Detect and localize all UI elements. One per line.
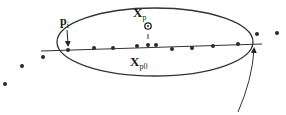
- projected-point-center: [147, 25, 149, 27]
- outlier-point: [41, 55, 45, 59]
- data-point: [92, 46, 96, 50]
- data-point: [66, 48, 70, 52]
- label-x-p0-main: X: [130, 54, 139, 69]
- data-point: [111, 46, 115, 50]
- label-p-i: pi: [60, 15, 69, 27]
- outlier-point: [3, 82, 7, 86]
- data-point: [154, 43, 158, 47]
- fit-line: [41, 44, 262, 51]
- neighborhood-ellipse: [57, 8, 253, 76]
- data-point: [211, 44, 215, 48]
- outlier-point: [275, 31, 279, 35]
- label-x-p-main: X: [133, 5, 142, 20]
- outlier-point: [255, 32, 259, 36]
- label-x-p0: Xp0: [130, 55, 147, 68]
- outlier-point: [20, 64, 24, 68]
- label-p-i-main: p: [60, 14, 67, 28]
- data-point: [236, 42, 240, 46]
- label-p-i-sub: i: [67, 21, 69, 30]
- label-x-p-sub: p: [142, 13, 146, 22]
- label-x-p0-sub: p0: [139, 62, 147, 71]
- data-point: [190, 46, 194, 50]
- data-point: [135, 44, 139, 48]
- label-x-p: Xp: [133, 6, 146, 19]
- data-point: [170, 47, 174, 51]
- data-point: [146, 43, 150, 47]
- pointer-arrow-icon: [67, 30, 68, 44]
